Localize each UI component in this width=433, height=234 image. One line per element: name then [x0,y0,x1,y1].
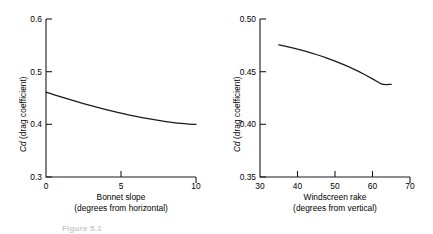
windscreen-rake-plot: 0.50 0.45 0.40 0.35 30 40 50 60 70 [220,0,433,216]
y-axis-label-right: Cd (drag coefficient) [234,76,242,152]
y-tick-label: 0.4 [30,119,42,129]
y-axis-label-rest: (drag coefficient) [19,76,28,141]
figure-caption: Figure 5.1 [62,224,102,233]
y-axis-label-symbol: Cd [233,141,242,152]
bonnet-slope-plot: 0.6 0.5 0.4 0.3 0 5 10 [0,0,220,216]
data-curve-windscreen-rake [279,45,392,85]
x-tick-label: 10 [191,181,201,191]
x-axis-label-line1: Windscreen rake [260,192,410,203]
x-tick-label: 50 [330,181,340,191]
chart-panel-bonnet-slope: 0.6 0.5 0.4 0.3 0 5 10 Cd (drag coeffici… [0,0,220,216]
axis-lines-left [46,19,196,177]
y-tick-label: 0.6 [30,14,42,24]
y-axis-label-symbol: Cd [19,141,28,152]
x-tick-label: 70 [405,181,415,191]
y-tick-label: 0.50 [240,14,257,24]
y-axis-label-rest: (drag coefficient) [233,76,242,141]
x-axis-label-line2: (degrees from vertical) [260,203,410,214]
figure-root: 0.6 0.5 0.4 0.3 0 5 10 Cd (drag coeffici… [0,0,433,234]
x-axis-label-left: Bonnet slope (degrees from horizontal) [46,192,196,214]
x-tick-label: 60 [368,181,378,191]
y-tick-label: 0.5 [30,67,42,77]
y-ticks-right [260,19,266,177]
x-axis-label-line2: (degrees from horizontal) [46,203,196,214]
x-tick-label: 40 [293,181,303,191]
y-ticks-left [46,19,52,177]
axis-lines-right [260,19,410,177]
y-tick-label: 0.3 [30,172,42,182]
x-tick-label: 5 [119,181,124,191]
y-tick-label: 0.45 [240,67,257,77]
x-tick-label: 0 [44,181,49,191]
x-tick-label: 30 [255,181,265,191]
chart-panel-windscreen-rake: 0.50 0.45 0.40 0.35 30 40 50 60 70 Cd (d… [220,0,433,216]
x-axis-label-right: Windscreen rake (degrees from vertical) [260,192,410,214]
y-tick-label: 0.35 [240,172,257,182]
data-curve-bonnet-slope [46,92,196,124]
y-axis-label-left: Cd (drag coefficient) [20,76,28,152]
x-axis-label-line1: Bonnet slope [46,192,196,203]
